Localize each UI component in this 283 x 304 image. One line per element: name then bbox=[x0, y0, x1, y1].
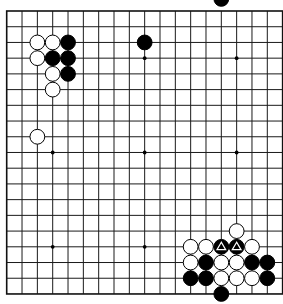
white-stone-icon bbox=[245, 271, 260, 286]
black-stone-icon bbox=[199, 255, 214, 270]
board-stone[interactable] bbox=[214, 287, 229, 302]
board-stone[interactable] bbox=[229, 255, 244, 270]
star-point bbox=[51, 151, 55, 155]
black-stone-icon bbox=[61, 66, 76, 81]
white-stone-icon bbox=[45, 35, 60, 50]
star-point bbox=[143, 56, 147, 60]
board-stone[interactable] bbox=[30, 129, 45, 144]
board-stone[interactable] bbox=[245, 239, 260, 254]
star-point bbox=[143, 245, 147, 249]
board-stone[interactable] bbox=[30, 51, 45, 66]
white-stone-icon bbox=[229, 271, 244, 286]
board-stone[interactable] bbox=[45, 51, 60, 66]
white-stone-icon bbox=[30, 35, 45, 50]
white-stone-icon bbox=[229, 255, 244, 270]
star-point bbox=[235, 56, 239, 60]
black-stone-icon bbox=[260, 271, 275, 286]
board-stone[interactable] bbox=[137, 35, 152, 50]
black-stone-icon bbox=[45, 51, 60, 66]
board-stone[interactable] bbox=[229, 239, 244, 254]
board-stone[interactable] bbox=[183, 271, 198, 286]
board-stone[interactable] bbox=[214, 239, 229, 254]
black-stone-icon bbox=[214, 287, 229, 302]
black-stone-icon bbox=[199, 271, 214, 286]
star-point bbox=[235, 151, 239, 155]
board-stone[interactable] bbox=[199, 239, 214, 254]
board-stone[interactable] bbox=[229, 271, 244, 286]
white-stone-icon bbox=[229, 224, 244, 239]
board-stone[interactable] bbox=[229, 224, 244, 239]
white-stone-icon bbox=[183, 239, 198, 254]
white-stone-icon bbox=[214, 255, 229, 270]
star-point bbox=[143, 151, 147, 155]
black-stone-icon bbox=[137, 35, 152, 50]
board-stone[interactable] bbox=[183, 239, 198, 254]
white-stone-icon bbox=[45, 66, 60, 81]
black-stone-icon bbox=[245, 255, 260, 270]
board-stone[interactable] bbox=[199, 271, 214, 286]
white-stone-icon bbox=[45, 82, 60, 97]
board-stone[interactable] bbox=[30, 35, 45, 50]
board-stone[interactable] bbox=[245, 271, 260, 286]
board-stone[interactable] bbox=[45, 66, 60, 81]
board-stone[interactable] bbox=[214, 255, 229, 270]
white-stone-icon bbox=[214, 271, 229, 286]
star-point bbox=[51, 245, 55, 249]
board-stone[interactable] bbox=[214, 271, 229, 286]
board-stone[interactable] bbox=[183, 255, 198, 270]
white-stone-icon bbox=[245, 239, 260, 254]
white-stone-icon bbox=[30, 51, 45, 66]
board-stone[interactable] bbox=[45, 35, 60, 50]
board-stone[interactable] bbox=[245, 255, 260, 270]
go-board[interactable] bbox=[0, 0, 283, 304]
black-stone-icon bbox=[260, 255, 275, 270]
board-stone[interactable] bbox=[199, 255, 214, 270]
white-stone-icon bbox=[183, 255, 198, 270]
board-stone[interactable] bbox=[61, 35, 76, 50]
board-stone[interactable] bbox=[260, 271, 275, 286]
black-stone-icon bbox=[61, 35, 76, 50]
board-stone[interactable] bbox=[61, 51, 76, 66]
black-stone-icon bbox=[61, 51, 76, 66]
white-stone-icon bbox=[30, 129, 45, 144]
board-stone[interactable] bbox=[61, 66, 76, 81]
white-stone-icon bbox=[199, 239, 214, 254]
black-stone-icon bbox=[183, 271, 198, 286]
board-stone[interactable] bbox=[260, 255, 275, 270]
board-stone[interactable] bbox=[45, 82, 60, 97]
